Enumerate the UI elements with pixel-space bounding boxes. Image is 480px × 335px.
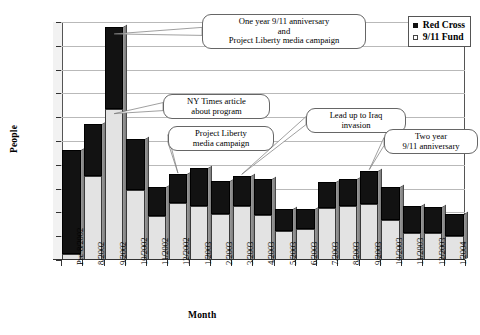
- legend-label-red-cross: Red Cross: [423, 19, 465, 31]
- x-tick-label: 12/2002: [181, 238, 191, 265]
- bar-segment-red-cross: [233, 176, 251, 207]
- bar-segment-red-cross: [126, 139, 144, 190]
- x-tick-label: 11/2003: [415, 238, 425, 265]
- bar-segment-red-cross: [360, 171, 378, 204]
- x-axis-title: Month: [188, 310, 216, 320]
- bar-segment-red-cross: [381, 187, 399, 220]
- y-tick-mark: [56, 165, 61, 166]
- x-tick-label: Pre-8/2002: [75, 228, 85, 265]
- bar-segment-red-cross: [275, 209, 293, 231]
- y-tick-mark: [56, 141, 61, 142]
- x-tick-label: 3/2003: [245, 242, 255, 265]
- x-tick-label: 7/2003: [330, 242, 340, 265]
- annotation-line: invasion: [313, 121, 399, 131]
- bar-segment-red-cross: [424, 207, 442, 233]
- annotation-anniversary-two-year: Two year9/11 anniversary: [384, 129, 478, 154]
- chart-legend: Red Cross 9/11 Fund: [408, 16, 471, 47]
- x-tick-label: 8/2003: [351, 242, 361, 265]
- bar-segment-red-cross: [169, 174, 187, 203]
- x-tick-label: 5/2003: [288, 242, 298, 265]
- bar-segment-red-cross: [254, 179, 272, 215]
- y-tick-mark: [56, 70, 61, 71]
- open-square-icon: [413, 35, 418, 40]
- x-tick-label: 10/2002: [139, 238, 149, 265]
- y-tick-mark: [56, 22, 61, 23]
- bar-segment-red-cross: [296, 209, 314, 229]
- y-tick-mark: [56, 260, 61, 261]
- bar-segment-red-cross: [84, 124, 102, 175]
- chart-container: People Month 020040060080010001200140016…: [0, 0, 480, 335]
- y-tick-mark: [56, 212, 61, 213]
- bar-segment-red-cross: [339, 179, 357, 206]
- x-tick-label: 9/2002: [118, 242, 128, 265]
- annotation-line: Project Liberty media campaign: [209, 36, 359, 46]
- bar-9-2002: [105, 27, 123, 260]
- annotation-project-liberty-campaign: Project Libertymedia campaign: [168, 126, 274, 151]
- bar-segment-red-cross: [148, 187, 166, 216]
- bar-8-2002: [84, 124, 102, 260]
- annotation-anniversary-one-year: One year 9/11 anniversaryandProject Libe…: [202, 14, 366, 49]
- x-tick-label: 1/2004: [458, 242, 468, 265]
- x-tick-label: 4/2003: [266, 242, 276, 265]
- legend-item-911-fund: 9/11 Fund: [413, 31, 465, 43]
- y-tick-mark: [56, 117, 61, 118]
- annotation-line: media campaign: [175, 139, 267, 149]
- filled-square-icon: [413, 23, 418, 28]
- x-tick-label: 2/2003: [224, 242, 234, 265]
- legend-item-red-cross: Red Cross: [413, 19, 465, 31]
- annotation-line: 9/11 anniversary: [391, 142, 471, 152]
- y-tick-mark: [56, 46, 61, 47]
- y-axis-title: People: [9, 109, 19, 169]
- x-tick-label: 8/2002: [96, 242, 106, 265]
- legend-label-911-fund: 9/11 Fund: [423, 31, 464, 43]
- x-tick-label: 11/2002: [160, 238, 170, 265]
- x-tick-label: 6/2003: [309, 242, 319, 265]
- bar-segment-red-cross: [211, 181, 229, 214]
- x-tick-label: 10/2003: [394, 238, 404, 265]
- y-tick-mark: [56, 236, 61, 237]
- bar-segment-911-fund: [105, 109, 123, 260]
- bar-segment-red-cross: [190, 168, 208, 207]
- bar-segment-red-cross: [318, 182, 336, 208]
- x-tick-label: 1/2003: [203, 242, 213, 265]
- x-tick-label: 9/2003: [373, 242, 383, 265]
- bar-segment-red-cross: [403, 206, 421, 232]
- bar-segment-red-cross: [105, 27, 123, 109]
- y-tick-mark: [56, 189, 61, 190]
- y-tick-mark: [56, 93, 61, 94]
- bar-segment-red-cross: [445, 214, 463, 237]
- annotation-ny-times-article: NY Times articleabout program: [163, 94, 270, 119]
- x-axis-labels: Pre-8/20028/20029/200210/200211/200212/2…: [53, 263, 465, 311]
- annotation-line: about program: [170, 107, 263, 117]
- x-tick-label: 12/2003: [437, 238, 447, 265]
